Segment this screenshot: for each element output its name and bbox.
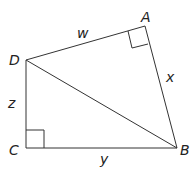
diagonal-db [26, 60, 177, 148]
side-label-z: z [7, 95, 16, 111]
vertex-label-d: D [9, 52, 20, 68]
vertex-label-b: B [180, 142, 190, 158]
right-angle-mark-a [128, 31, 148, 48]
side-label-w: w [77, 25, 89, 41]
side-label-y: y [99, 151, 109, 167]
right-angle-mark-c [26, 130, 44, 148]
side-ab [145, 26, 177, 148]
vertex-label-c: C [9, 142, 19, 158]
side-label-x: x [165, 69, 175, 85]
geometry-diagram: A B C D w x y z [0, 0, 194, 170]
vertex-label-a: A [140, 9, 151, 25]
